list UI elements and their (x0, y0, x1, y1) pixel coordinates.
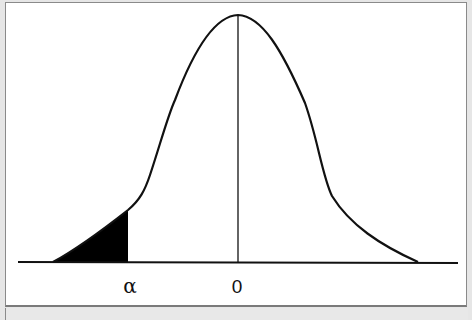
zero-label: 0 (232, 277, 243, 296)
x-axis-baseline (18, 262, 458, 263)
bell-curve-diagram (0, 0, 472, 320)
alpha-label: α (123, 276, 137, 296)
bell-curve (53, 15, 418, 262)
